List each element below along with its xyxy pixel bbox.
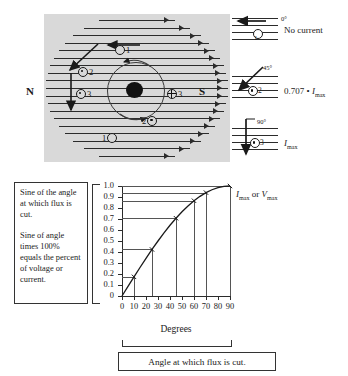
- x-axis-tick: [146, 296, 147, 300]
- conductor-2-top: 2: [78, 67, 94, 77]
- y-axis-tick-label: 0.7: [94, 214, 114, 223]
- conductor-ring-icon: [115, 45, 125, 55]
- y-axis-tick-label: 0.5: [94, 236, 114, 245]
- x-axis-brace: [122, 340, 232, 347]
- conductor-dot-icon: [76, 89, 86, 99]
- x-axis-tick: [194, 296, 195, 300]
- legend: 1 0° No current 2 45° 0.707 • Imax: [232, 16, 348, 166]
- legend-conductor-symbol-45: 2: [248, 86, 262, 96]
- legend-flux-lines-90: 3: [232, 126, 278, 156]
- x-axis-title: Degrees: [122, 324, 230, 334]
- description-paragraph-1: Sine of the angle at which flux is cut.: [20, 187, 82, 221]
- conductor-dot-icon: [78, 67, 88, 77]
- conductor-cross-icon: [167, 89, 177, 99]
- legend-value-0: No current: [284, 25, 323, 35]
- conductor-1-bottom: 1: [101, 133, 117, 143]
- y-axis-tick-label: 0.1: [94, 280, 114, 289]
- y-axis-tick-label: 0.4: [94, 247, 114, 256]
- conductor-dot-icon: [147, 116, 157, 126]
- x-axis-tick: [206, 296, 207, 300]
- sine-curve: [122, 186, 230, 296]
- x-axis-tick: [230, 296, 231, 300]
- y-axis-tick-label: 1.0: [94, 181, 114, 190]
- legend-angle-45: 45°: [263, 64, 272, 71]
- legend-value-45: 0.707 • Imax: [284, 86, 325, 98]
- legend-flux-lines-45: 2: [232, 74, 278, 104]
- rotor-shaft: [126, 82, 143, 98]
- gridline-vertical: [230, 186, 231, 296]
- y-axis-tick-label: 0.9: [94, 192, 114, 201]
- x-axis-tick: [158, 296, 159, 300]
- legend-conductor-number-0: 1: [254, 34, 258, 42]
- legend-conductor-symbol-90: 3: [250, 138, 264, 148]
- legend-angle-0: 0°: [281, 15, 287, 22]
- x-axis-tick: [218, 296, 219, 300]
- x-axis-tick: [134, 296, 135, 300]
- legend-angle-90: 90°: [257, 118, 266, 125]
- y-axis-tick-label: 0.2: [94, 269, 114, 278]
- y-axis-tick-label: 0.6: [94, 225, 114, 234]
- sine-curve-path: [122, 186, 230, 296]
- y-axis-tick-label: 0.8: [94, 203, 114, 212]
- sine-curve-chart-panel: Sine of the angle at which flux is cut. …: [0, 172, 348, 376]
- x-axis-tick: [182, 296, 183, 300]
- x-axis-tick-label: 90: [222, 302, 238, 311]
- conductor-1-top: 1: [115, 45, 131, 55]
- pole-label-south: S: [199, 85, 205, 97]
- sine-plot: 1.00.90.80.70.60.50.40.30.20.10 01020304…: [122, 186, 230, 296]
- description-paragraph-2: Sine of angle times 100% equals the perc…: [20, 230, 82, 286]
- plot-side-label: Imax or Vmax: [236, 189, 278, 201]
- description-box: Sine of the angle at which flux is cut. …: [14, 182, 88, 304]
- pole-label-north: N: [26, 85, 34, 97]
- caption-box: Angle at which flux is cut.: [118, 352, 276, 371]
- x-axis-tick: [122, 296, 123, 300]
- conductor-ring-icon: [107, 133, 117, 143]
- conductor-2-bottom: 2: [141, 116, 157, 126]
- conductor-3-left: 3: [76, 89, 92, 99]
- magnetic-field-diagram: N S 1 2 3 3 2 1: [0, 0, 348, 172]
- conductor-3-right: 3: [167, 89, 183, 99]
- legend-value-90: Imax: [284, 138, 298, 150]
- caption-text: Angle at which flux is cut.: [148, 357, 245, 367]
- y-axis-tick-label: 0: [94, 291, 114, 300]
- y-axis-tick-label: 0.3: [94, 258, 114, 267]
- x-axis-tick: [170, 296, 171, 300]
- legend-flux-lines-0: 1: [232, 16, 278, 46]
